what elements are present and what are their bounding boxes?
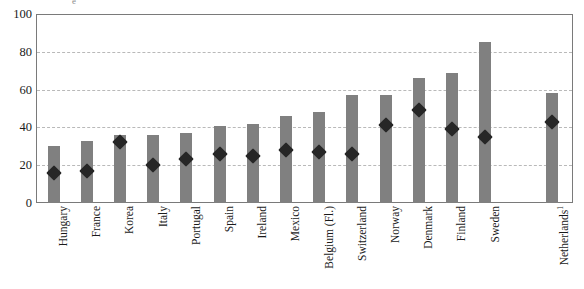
x-tick-label: France (91, 206, 103, 237)
bar (280, 116, 292, 203)
chart-container: e 020406080100 HungaryFranceKoreaItalyPo… (0, 0, 584, 289)
x-tick-label: Belgium (Fl.) (324, 206, 336, 269)
x-tick-label: Denmark (423, 206, 435, 249)
y-tick-label: 0 (2, 197, 32, 210)
series-layer (36, 14, 573, 203)
bar (413, 78, 425, 203)
y-tick-label: 60 (2, 83, 32, 96)
x-tick-label: Netherlands1 (557, 206, 570, 265)
bar (446, 73, 458, 203)
y-tick-label: 40 (2, 121, 32, 134)
cropped-text-remnant: e (72, 0, 77, 6)
x-tick-label: Mexico (290, 206, 302, 241)
y-tick-label: 80 (2, 46, 32, 59)
x-axis-labels: HungaryFranceKoreaItalyPortugalSpainIrel… (36, 206, 573, 289)
x-tick-label: Finland (456, 206, 468, 241)
x-tick-label: Spain (224, 206, 236, 232)
y-axis: 020406080100 (0, 14, 32, 203)
y-tick-label: 20 (2, 159, 32, 172)
x-tick-label: Sweden (490, 206, 502, 242)
x-tick-label: Italy (158, 206, 170, 227)
bar (479, 42, 491, 203)
x-tick-label: Portugal (191, 206, 203, 245)
bar (180, 133, 192, 203)
bar (546, 93, 558, 203)
y-tick-label: 100 (2, 8, 32, 21)
bar (214, 126, 226, 203)
x-tick-label: Ireland (257, 206, 269, 239)
x-tick-label: Norway (390, 206, 402, 243)
footnote-marker: 1 (556, 206, 565, 210)
bar (380, 95, 392, 203)
x-tick-label: Hungary (58, 206, 70, 246)
x-tick-label: Korea (124, 206, 136, 234)
x-tick-label: Switzerland (357, 206, 369, 261)
